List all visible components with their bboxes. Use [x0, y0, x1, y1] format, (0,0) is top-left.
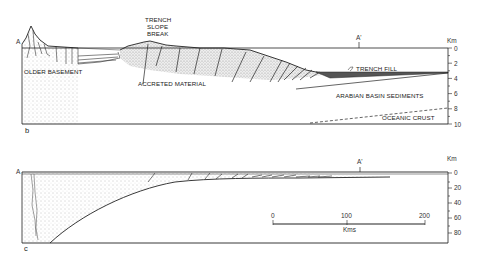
panel-b-tick-0: 0	[454, 45, 458, 52]
scale-tick-100: 100	[341, 212, 352, 219]
panel-c-tick-20: 20	[454, 184, 462, 191]
panel-c-wedge-body	[22, 173, 390, 243]
forearc-basin-layers	[78, 48, 120, 64]
label-arabian-basin-sediments: ARABIAN BASIN SEDIMENTS	[336, 92, 424, 99]
older-basement-body	[22, 26, 78, 124]
label-break: BREAK	[147, 30, 169, 37]
panel-b-tick-6: 6	[454, 90, 458, 97]
panel-c-tick-40: 40	[454, 199, 462, 206]
panel-b-section-start: A	[16, 38, 21, 45]
panel-b-tick-2: 2	[454, 60, 458, 67]
panel-b-tick-4: 4	[454, 75, 458, 82]
panel-b-section-end: A'	[356, 34, 362, 41]
label-trench-fill: TRENCH FILL	[356, 65, 397, 72]
geological-cross-sections: Km 0 2 4 6 8 10 A' A TRENCH SLOPE BREAK …	[0, 0, 481, 258]
label-older-basement: OLDER BASEMENT	[24, 68, 83, 75]
scale-tick-200: 200	[419, 212, 430, 219]
panel-c-tick-60: 60	[454, 214, 462, 221]
panel-c-section-start: A	[16, 168, 21, 175]
panel-b-axis-unit: Km	[447, 37, 457, 44]
label-slope: SLOPE	[147, 23, 168, 30]
panel-c-section-end: A'	[357, 158, 363, 165]
panel-c-label: c	[24, 244, 28, 253]
panel-b-cross-section: Km 0 2 4 6 8 10 A' A TRENCH SLOPE BREAK …	[16, 16, 462, 135]
label-accreted-material: ACCRETED MATERIAL	[138, 80, 206, 87]
panel-b-tick-10: 10	[454, 121, 462, 128]
panel-b-label: b	[25, 126, 29, 135]
scale-tick-0: 0	[271, 212, 275, 219]
label-oceanic-crust: OCEANIC CRUST	[382, 114, 435, 121]
label-trench: TRENCH	[145, 16, 171, 23]
panel-c-axis-unit: Km	[447, 155, 457, 162]
panel-b-tick-8: 8	[454, 105, 458, 112]
panel-c-cross-section: Km 0 20 40 60 80 A' A 0 100 200 Kms c	[16, 155, 462, 253]
trench-fill-pointer	[348, 67, 353, 71]
scale-unit: Kms	[343, 226, 357, 233]
panel-c-tick-80: 80	[454, 229, 462, 236]
scale-bar: 0 100 200 Kms	[271, 212, 430, 233]
panel-c-tick-0: 0	[454, 169, 458, 176]
